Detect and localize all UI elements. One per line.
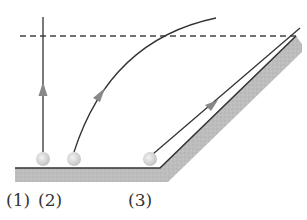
label-3: (3) <box>128 190 152 210</box>
arrow-3-icon <box>205 100 218 111</box>
label-2: (2) <box>38 190 62 210</box>
trajectory-3 <box>153 28 300 154</box>
physics-diagram <box>0 0 307 220</box>
label-1: (1) <box>6 190 30 210</box>
ball-2 <box>67 152 81 166</box>
ground-edge <box>15 36 296 168</box>
arrow-2-icon <box>93 88 105 102</box>
trajectory-2 <box>74 18 216 152</box>
ball-1 <box>36 152 50 166</box>
ground-surface <box>15 36 302 182</box>
ball-3 <box>143 152 157 166</box>
arrow-1-icon <box>39 82 48 96</box>
